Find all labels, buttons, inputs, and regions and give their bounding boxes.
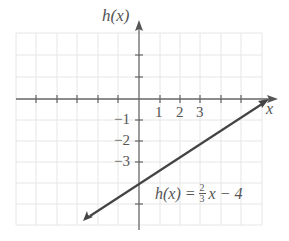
function-equation: h(x) = 2 3 x − 4 [155, 183, 242, 204]
equation-lhs: h(x) = [155, 185, 196, 203]
y-axis-label: h(x) [102, 6, 129, 26]
equation-fraction: 2 3 [199, 183, 206, 204]
y-tick-label-minus1: −1 [114, 111, 130, 128]
x-axis-label: x [266, 100, 273, 118]
x-tick-label-3: 3 [196, 104, 204, 121]
coordinate-plane [0, 0, 289, 241]
fraction-denominator: 3 [200, 194, 205, 204]
y-tick-label-minus2: −2 [114, 132, 130, 149]
x-tick-label-2: 2 [176, 104, 184, 121]
y-tick-label-minus3: −3 [114, 153, 130, 170]
equation-rhs: x − 4 [209, 185, 243, 203]
x-tick-label-1: 1 [155, 104, 163, 121]
